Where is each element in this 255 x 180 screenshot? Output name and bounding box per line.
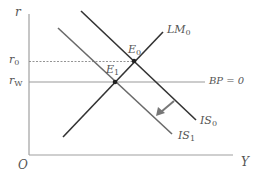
lm0-curve [63,32,163,137]
x-axis-label: Y [241,156,249,168]
rw-label: rW [9,75,23,88]
is1-label: IS1 [178,130,195,143]
origin-label: O [18,159,28,171]
y-axis-label: r [15,6,21,18]
e0-label: E0 [128,44,141,57]
r0-label: r0 [9,54,19,67]
bp-zero-label: BP = 0 [209,76,244,86]
e0-point [132,59,137,64]
is-lm-bp-diagram [0,0,255,180]
lm0-label: LM0 [167,24,191,37]
e1-label: E1 [106,64,119,77]
is0-label: IS0 [200,115,217,128]
shift-arrow-icon [156,101,174,116]
e1-point [113,80,118,85]
